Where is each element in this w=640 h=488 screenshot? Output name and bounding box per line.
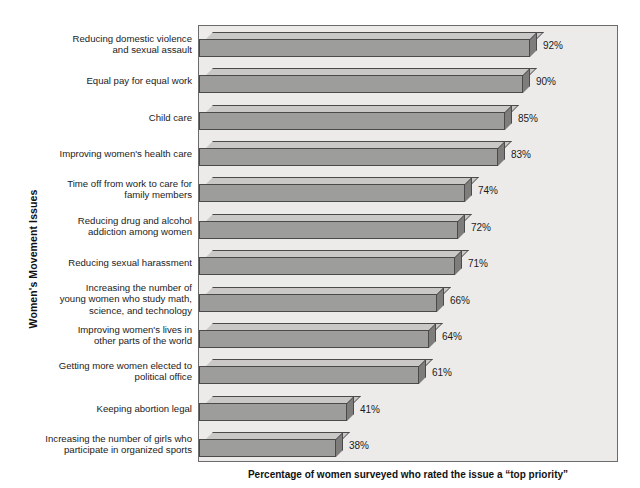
bar-front-face bbox=[199, 257, 455, 275]
bar-value-label: 90% bbox=[536, 76, 556, 87]
bar-front-face bbox=[199, 112, 505, 130]
bar-top-face bbox=[206, 432, 350, 439]
category-label-2: Equal pay for equal work bbox=[14, 75, 192, 86]
category-label-5: Time off from work to care for family me… bbox=[14, 178, 192, 201]
bar-front-face bbox=[199, 403, 347, 421]
category-label-11: Keeping abortion legal bbox=[14, 403, 192, 414]
bars-layer: 92%90%85%83%74%72%71%66%64%61%41%38% bbox=[199, 26, 617, 461]
bar-12: 38% bbox=[199, 432, 343, 457]
bar-front-face bbox=[199, 221, 458, 239]
bar-value-label: 41% bbox=[360, 404, 380, 415]
bar-7: 71% bbox=[199, 250, 462, 275]
bar-value-label: 92% bbox=[543, 40, 563, 51]
bar-front-face bbox=[199, 366, 419, 384]
bar-1: 92% bbox=[199, 32, 537, 57]
bar-side-face bbox=[336, 432, 343, 457]
bar-value-label: 66% bbox=[450, 295, 470, 306]
bar-5: 74% bbox=[199, 177, 472, 202]
plot-area: 92%90%85%83%74%72%71%66%64%61%41%38% bbox=[198, 25, 618, 462]
bar-value-label: 71% bbox=[468, 258, 488, 269]
bar-top-face bbox=[206, 68, 537, 75]
x-axis-title: Percentage of women surveyed who rated t… bbox=[198, 469, 618, 480]
bar-6: 72% bbox=[199, 214, 465, 239]
category-label-7: Reducing sexual harassment bbox=[14, 257, 192, 268]
bar-top-face bbox=[206, 177, 479, 184]
bar-front-face bbox=[199, 39, 530, 57]
bar-top-face bbox=[206, 250, 469, 257]
bar-value-label: 64% bbox=[442, 331, 462, 342]
category-label-3: Child care bbox=[14, 112, 192, 123]
category-label-10: Getting more women elected to political … bbox=[14, 360, 192, 383]
bar-top-face bbox=[206, 359, 433, 366]
category-label-8: Increasing the number of young women who… bbox=[14, 282, 192, 316]
bar-4: 83% bbox=[199, 141, 505, 166]
bar-front-face bbox=[199, 330, 429, 348]
bar-9: 64% bbox=[199, 323, 436, 348]
bar-front-face bbox=[199, 439, 336, 457]
bar-top-face bbox=[206, 287, 451, 294]
category-label-4: Improving women's health care bbox=[14, 148, 192, 159]
category-label-1: Reducing domestic violence and sexual as… bbox=[14, 33, 192, 56]
bar-top-face bbox=[206, 214, 472, 221]
bar-2: 90% bbox=[199, 68, 530, 93]
bar-11: 41% bbox=[199, 396, 354, 421]
bar-top-face bbox=[206, 105, 519, 112]
bar-value-label: 85% bbox=[518, 113, 538, 124]
bar-top-face bbox=[206, 396, 361, 403]
bar-value-label: 72% bbox=[471, 222, 491, 233]
category-label-12: Increasing the number of girls who parti… bbox=[14, 433, 192, 456]
bar-front-face bbox=[199, 75, 523, 93]
category-label-6: Reducing drug and alcohol addiction amon… bbox=[14, 215, 192, 238]
bar-3: 85% bbox=[199, 105, 512, 130]
bar-value-label: 83% bbox=[511, 149, 531, 160]
bar-front-face bbox=[199, 294, 437, 312]
bar-front-face bbox=[199, 184, 465, 202]
bar-front-face bbox=[199, 148, 498, 166]
bar-value-label: 74% bbox=[478, 185, 498, 196]
category-label-column: Reducing domestic violence and sexual as… bbox=[14, 25, 192, 462]
chart-container: Women's Movement Issues Reducing domesti… bbox=[0, 0, 640, 488]
bar-top-face bbox=[206, 141, 512, 148]
bar-side-face bbox=[419, 359, 426, 384]
bar-value-label: 38% bbox=[349, 440, 369, 451]
bar-10: 61% bbox=[199, 359, 426, 384]
bar-top-face bbox=[206, 32, 544, 39]
bar-8: 66% bbox=[199, 287, 444, 312]
category-label-9: Improving women's lives in other parts o… bbox=[14, 324, 192, 347]
bar-top-face bbox=[206, 323, 443, 330]
bar-value-label: 61% bbox=[432, 367, 452, 378]
bar-side-face bbox=[465, 177, 472, 202]
